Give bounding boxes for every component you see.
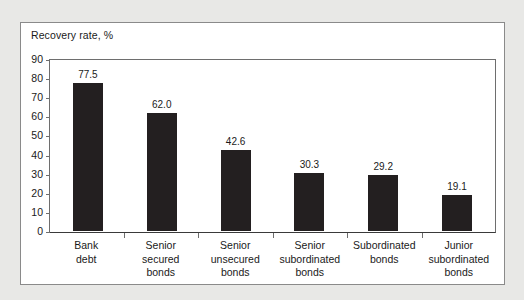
figure-frame: Recovery rate, % 9080706050403020100 77.… — [20, 22, 505, 285]
bar-slot: 42.6 — [199, 61, 273, 231]
x-axis-tick-mark — [124, 233, 125, 238]
x-axis-category-label-line: bonds — [199, 266, 272, 280]
bar[interactable] — [294, 173, 324, 231]
x-axis-category-label-line: bonds — [348, 253, 421, 267]
x-axis-category-label-line: debt — [50, 253, 123, 267]
x-axis-category-label-line: Subordinated — [348, 239, 421, 253]
bar-slot: 77.5 — [51, 61, 125, 231]
bar-value-label: 29.2 — [373, 161, 392, 173]
y-axis-tick-mark — [46, 156, 50, 157]
x-axis-category-label-line: bonds — [125, 266, 198, 280]
y-axis-tick-label: 30 — [31, 168, 43, 181]
y-axis-tick-label: 60 — [31, 110, 43, 123]
y-axis-tick-label: 10 — [31, 206, 43, 219]
x-axis-category-label: Seniorsecuredbonds — [124, 239, 199, 280]
x-axis-category-label-line: secured — [125, 253, 198, 267]
x-axis-category-label: Seniorunsecuredbonds — [198, 239, 273, 280]
x-axis-tick-mark — [273, 233, 274, 238]
bars-group: 77.562.042.630.329.219.1 — [51, 61, 494, 231]
bar-value-label: 30.3 — [300, 159, 319, 171]
x-axis-category-label-line: Senior — [274, 239, 347, 253]
x-axis-category-label: Bankdebt — [49, 239, 124, 280]
x-axis-tick-mark — [422, 233, 423, 238]
bar[interactable] — [368, 175, 398, 231]
x-axis-labels: BankdebtSeniorsecuredbondsSeniorunsecure… — [49, 239, 496, 280]
plot-area: 9080706050403020100 77.562.042.630.329.2… — [49, 59, 496, 233]
y-axis-tick-label: 90 — [31, 53, 43, 66]
x-axis-tick-mark — [347, 233, 348, 238]
x-axis-category-label-line: bonds — [274, 266, 347, 280]
chart-title: Recovery rate, % — [31, 29, 113, 41]
bar[interactable] — [73, 83, 103, 231]
x-axis-tick-mark — [198, 233, 199, 238]
y-axis-tick-label: 80 — [31, 72, 43, 85]
x-axis-category-label: Juniorsubordinatedbonds — [422, 239, 497, 280]
y-axis-tick-label: 0 — [37, 225, 43, 238]
x-axis-category-label-line: unsecured — [199, 253, 272, 267]
x-axis-category-label-line: subordinated — [274, 253, 347, 267]
x-axis-category-label-line: Senior — [125, 239, 198, 253]
y-axis-tick-label: 40 — [31, 149, 43, 162]
bar-value-label: 62.0 — [152, 99, 171, 111]
bar[interactable] — [221, 150, 251, 231]
y-axis-tick-mark — [46, 60, 50, 61]
x-axis-category-label: Seniorsubordinatedbonds — [273, 239, 348, 280]
bar-value-label: 19.1 — [447, 181, 466, 193]
x-axis-category-label-line: Senior — [199, 239, 272, 253]
y-axis-tick-mark — [46, 136, 50, 137]
bar-value-label: 42.6 — [226, 136, 245, 148]
x-axis-category-label-line: subordinated — [423, 253, 496, 267]
x-axis-category-label-line: bonds — [423, 266, 496, 280]
y-axis-tick-mark — [46, 194, 50, 195]
y-axis-tick-label: 20 — [31, 187, 43, 200]
bar-value-label: 77.5 — [78, 69, 97, 81]
y-axis-tick-mark — [46, 79, 50, 80]
y-axis-tick-mark — [46, 213, 50, 214]
y-axis-tick-mark — [46, 98, 50, 99]
bar[interactable] — [147, 113, 177, 231]
x-axis-category-label-line: Junior — [423, 239, 496, 253]
bar-slot: 62.0 — [125, 61, 199, 231]
x-axis-category-label: Subordinatedbonds — [347, 239, 422, 280]
bar-slot: 30.3 — [272, 61, 346, 231]
y-axis-tick-mark — [46, 175, 50, 176]
bar-slot: 19.1 — [420, 61, 494, 231]
bar-slot: 29.2 — [346, 61, 420, 231]
x-axis-category-label-line: Bank — [50, 239, 123, 253]
y-axis-tick-label: 70 — [31, 91, 43, 104]
bar[interactable] — [442, 195, 472, 232]
y-axis-tick-label: 50 — [31, 129, 43, 142]
y-axis-tick-mark — [46, 117, 50, 118]
